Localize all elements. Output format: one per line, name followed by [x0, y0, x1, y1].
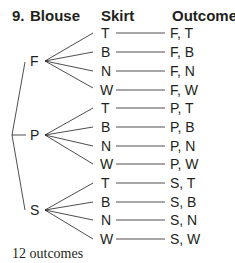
skirt-label: N	[101, 212, 111, 228]
skirt-label: W	[100, 231, 113, 247]
outcome-label: P, W	[170, 156, 199, 172]
skirt-label: B	[101, 194, 110, 210]
outcome-count: 12 outcomes	[12, 246, 83, 262]
outcome-label: P, N	[170, 138, 195, 154]
outcome-label: F, B	[170, 44, 194, 60]
skirt-label: T	[101, 175, 110, 191]
skirt-label: T	[101, 100, 110, 116]
skirt-label: N	[101, 138, 111, 154]
skirt-label: W	[100, 156, 113, 172]
outcome-label: S, W	[170, 231, 200, 247]
outcome-label: S, N	[170, 212, 197, 228]
outcome-label: S, B	[170, 194, 196, 210]
outcome-label: F, N	[170, 63, 195, 79]
outcome-label: F, W	[170, 82, 198, 98]
skirt-label: B	[101, 44, 110, 60]
skirt-label: B	[101, 119, 110, 135]
outcome-label: S, T	[170, 175, 195, 191]
blouse-s: S	[30, 202, 39, 218]
outcome-label: P, B	[170, 119, 195, 135]
skirt-label: W	[100, 82, 113, 98]
outcome-label: F, T	[170, 25, 193, 41]
blouse-f: F	[30, 53, 39, 69]
skirt-label: N	[101, 63, 111, 79]
outcome-label: P, T	[170, 100, 194, 116]
skirt-label: T	[101, 25, 110, 41]
blouse-p: P	[30, 127, 39, 143]
